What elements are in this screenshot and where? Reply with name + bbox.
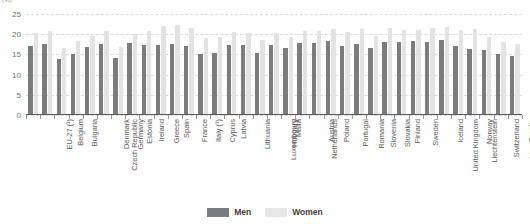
x-tick-label: Cyprus xyxy=(230,119,237,142)
bar-group xyxy=(97,14,111,115)
bar-women xyxy=(459,30,463,115)
bar-women xyxy=(445,27,449,115)
bar-men xyxy=(113,58,117,115)
bar-women xyxy=(34,33,38,115)
x-tick-label: Germany xyxy=(137,119,144,149)
bar-men xyxy=(28,46,32,115)
bar-women xyxy=(331,29,335,115)
y-tick-label: 0 xyxy=(17,111,21,120)
bar-group xyxy=(338,14,352,115)
y-tick-label: 20 xyxy=(12,30,21,39)
bar-women xyxy=(175,25,179,115)
bar-men xyxy=(212,53,216,115)
bar-group xyxy=(111,14,125,115)
bar-men xyxy=(127,43,131,115)
bar-group xyxy=(451,14,465,115)
bar-group xyxy=(69,14,83,115)
x-tick-label: Slovakia xyxy=(404,119,411,147)
bar-women xyxy=(246,33,250,115)
bar-women xyxy=(204,38,208,115)
bar-series-container xyxy=(26,14,522,115)
bar-group xyxy=(465,14,479,115)
x-tick-label: Portugal xyxy=(361,119,368,147)
bar-group xyxy=(125,14,139,115)
bar-men xyxy=(439,40,443,115)
y-tick-label: 5 xyxy=(17,90,21,99)
x-tick-label: Ireland xyxy=(158,119,165,142)
bar-men xyxy=(326,41,330,115)
bar-group xyxy=(324,14,338,115)
bar-group xyxy=(83,14,97,115)
bar-group xyxy=(494,14,508,115)
bar-men xyxy=(269,45,273,115)
bar-women xyxy=(515,44,519,115)
x-tick-label: Romania xyxy=(377,119,384,149)
bar-men xyxy=(198,54,202,115)
legend-item-men[interactable]: Men xyxy=(207,207,251,217)
x-axis-labels: EU-27 (¹)BelgiumBulgariaCzech RepublicDe… xyxy=(26,119,522,203)
x-tick-label: Bulgaria xyxy=(92,119,99,146)
x-tick-label: Poland xyxy=(343,119,350,142)
bar-men xyxy=(241,45,245,115)
bar-group xyxy=(309,14,323,115)
bar-men xyxy=(453,46,457,115)
bar-chart: (%) 0510152025 EU-27 (¹)BelgiumBulgariaC… xyxy=(0,0,530,224)
bar-men xyxy=(312,43,316,115)
bar-group xyxy=(182,14,196,115)
bar-women xyxy=(232,32,236,115)
bar-women xyxy=(402,30,406,115)
bar-women xyxy=(416,30,420,115)
bar-men xyxy=(283,48,287,115)
bar-group xyxy=(423,14,437,115)
bar-group xyxy=(366,14,380,115)
bar-men xyxy=(99,44,103,116)
bar-men xyxy=(227,45,231,115)
legend-label-women: Women xyxy=(292,207,323,217)
bar-men xyxy=(170,44,174,116)
x-tick-label: Spain xyxy=(183,119,190,138)
bar-women xyxy=(473,29,477,115)
y-tick-label: 25 xyxy=(12,10,21,19)
bar-group xyxy=(253,14,267,115)
bar-group xyxy=(139,14,153,115)
bar-women xyxy=(303,31,307,115)
bar-group xyxy=(168,14,182,115)
bar-group xyxy=(352,14,366,115)
bar-women xyxy=(289,37,293,115)
bar-men xyxy=(510,56,514,115)
bar-women xyxy=(161,26,165,115)
bar-women xyxy=(274,33,278,115)
x-tick-label: Denmark xyxy=(123,119,130,149)
x-tick-label: Norway xyxy=(486,119,493,144)
bar-group xyxy=(479,14,493,115)
bar-group xyxy=(380,14,394,115)
bar-group xyxy=(154,14,168,115)
bar-women xyxy=(374,36,378,115)
bar-group xyxy=(224,14,238,115)
y-tick-label: 15 xyxy=(12,50,21,59)
bar-women xyxy=(345,32,349,115)
x-tick-label: Malta xyxy=(295,119,302,137)
bar-women xyxy=(147,31,151,115)
bar-men xyxy=(71,54,75,115)
bar-men xyxy=(382,42,386,115)
bar-men xyxy=(368,48,372,115)
bar-women xyxy=(76,41,80,115)
bar-men xyxy=(467,49,471,115)
bar-men xyxy=(85,47,89,115)
legend-label-men: Men xyxy=(234,207,251,217)
bar-women xyxy=(388,28,392,115)
x-tick xyxy=(522,115,523,119)
x-tick-label: EU-27 (¹) xyxy=(66,119,73,149)
bar-group xyxy=(281,14,295,115)
bar-group xyxy=(54,14,68,115)
plot-area xyxy=(26,14,522,115)
x-tick-label: Austria xyxy=(328,119,335,142)
bar-women xyxy=(189,28,193,115)
legend-item-women[interactable]: Women xyxy=(265,207,323,217)
y-tick-label: 10 xyxy=(12,70,21,79)
bar-group xyxy=(239,14,253,115)
bar-group xyxy=(196,14,210,115)
bar-group xyxy=(508,14,522,115)
y-axis-labels: 0510152025 xyxy=(0,0,24,115)
